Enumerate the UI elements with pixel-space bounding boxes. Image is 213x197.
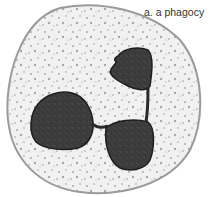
nucleus-lobe-left [31,92,93,149]
figure-canvas: a. a phagocy [0,0,213,197]
neutrophil-illustration [0,0,213,197]
figure-caption: a. a phagocy [144,6,204,18]
nucleus-lobe-bottom [106,120,154,170]
